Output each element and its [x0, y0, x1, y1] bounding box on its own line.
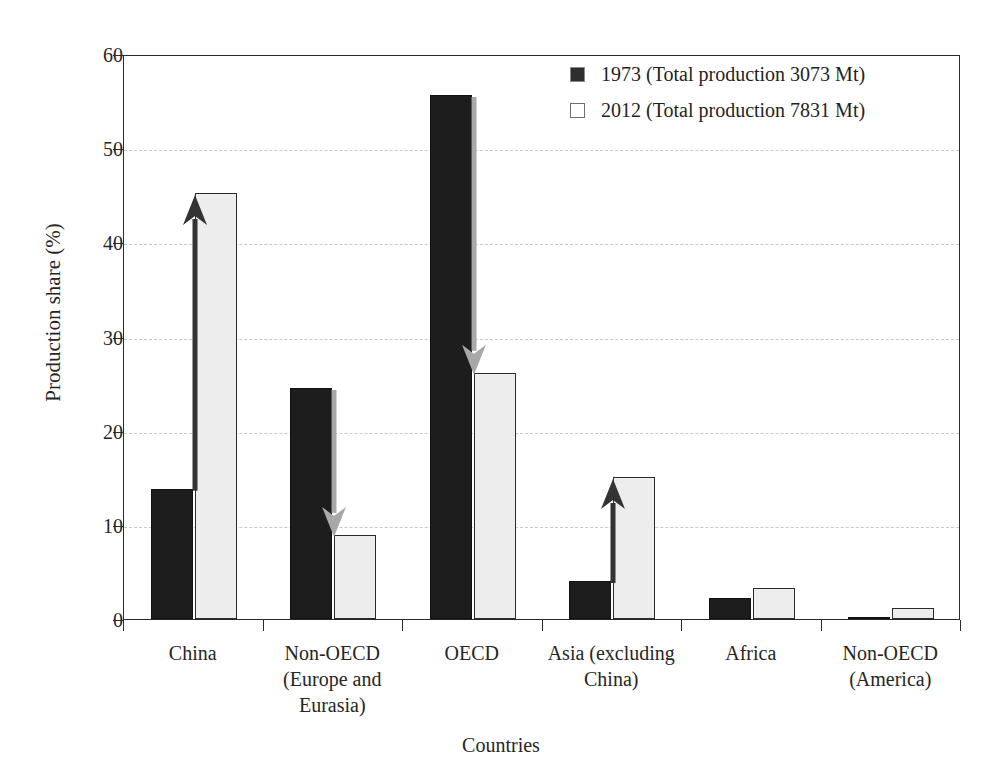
gridline	[124, 433, 959, 434]
oecd-decrease-arrow-icon	[457, 97, 491, 375]
gridline	[124, 150, 959, 151]
bar-2012-4	[753, 588, 795, 619]
y-axis-tick-mark	[113, 55, 123, 56]
bar-chart-figure: 0102030405060 Production share (%) China…	[0, 0, 1002, 778]
legend-entry-1: 2012 (Total production 7831 Mt)	[570, 92, 950, 128]
gridline	[124, 244, 959, 245]
bar-2012-1	[334, 535, 376, 619]
x-axis-tick-mark	[263, 620, 264, 631]
category-label-line: Eurasia)	[243, 692, 423, 718]
x-axis-tick-mark	[402, 620, 403, 631]
asia-increase-arrow-icon	[596, 479, 630, 584]
y-axis-tick-mark	[113, 526, 123, 527]
x-axis-category-label-5: Non-OECD(America)	[801, 640, 981, 692]
y-axis-title: Production share (%)	[41, 53, 66, 573]
category-label-line: (America)	[801, 666, 981, 692]
plot-area	[123, 55, 960, 620]
y-axis-tick-mark	[113, 620, 123, 621]
outlined-light-square-icon	[570, 103, 585, 118]
x-axis-tick-mark	[123, 620, 124, 631]
bar-1973-5	[848, 617, 890, 619]
category-label-line: China)	[522, 666, 702, 692]
y-axis-tick-mark	[113, 338, 123, 339]
gridline	[124, 527, 959, 528]
bar-1973-3	[569, 581, 611, 619]
bar-1973-0	[151, 489, 193, 619]
legend-entry-0: 1973 (Total production 3073 Mt)	[570, 56, 950, 92]
x-axis-title: Countries	[0, 734, 1002, 757]
x-axis-tick-mark	[821, 620, 822, 631]
legend-label: 2012 (Total production 7831 Mt)	[601, 99, 865, 121]
y-axis-tick-mark	[113, 149, 123, 150]
bar-1973-4	[709, 598, 751, 619]
china-increase-arrow-icon	[178, 195, 212, 491]
x-axis-tick-mark	[960, 620, 961, 631]
x-axis-tick-mark	[681, 620, 682, 631]
category-label-line: Non-OECD	[801, 640, 981, 666]
category-label-line: (Europe and	[243, 666, 423, 692]
chart-legend: 1973 (Total production 3073 Mt)2012 (Tot…	[570, 56, 950, 128]
bar-2012-2	[474, 373, 516, 619]
filled-dark-square-icon	[570, 67, 585, 82]
bar-2012-5	[892, 608, 934, 619]
gridline	[124, 339, 959, 340]
x-axis-tick-mark	[542, 620, 543, 631]
legend-label: 1973 (Total production 3073 Mt)	[601, 63, 865, 85]
y-axis-tick-mark	[113, 432, 123, 433]
y-axis-tick-mark	[113, 243, 123, 244]
non-oecd-europe-decrease-arrow-icon	[317, 390, 351, 537]
